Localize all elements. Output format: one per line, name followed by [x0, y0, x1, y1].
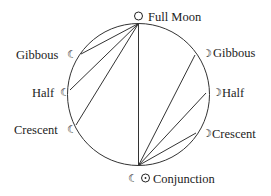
waxing-moon-icon: ☽: [212, 86, 222, 99]
chord-line: [81, 24, 139, 55]
right-half-label: Half: [222, 86, 245, 100]
waning-moon-icon: ☾: [67, 123, 77, 136]
right-crescent-label: Crescent: [212, 127, 256, 141]
left-half-label: Half: [32, 86, 55, 100]
left-crescent-label: Crescent: [14, 123, 58, 137]
chords-from-conjunction: [139, 55, 207, 166]
sun-icon-dot: [145, 177, 147, 179]
waxing-moon-icon: ☽: [202, 47, 212, 60]
chord-line: [76, 24, 139, 126]
chords-from-full-moon: [70, 24, 139, 166]
waning-moon-icon: ☾: [128, 172, 138, 185]
full-moon-icon: [135, 12, 143, 20]
conjunction-label: Conjunction: [153, 172, 216, 186]
lunar-phase-diagram: Full Moon Gibbous ☾ Half ☾ Crescent ☾ ☽ …: [0, 0, 271, 196]
full-moon-label: Full Moon: [148, 10, 202, 24]
waning-moon-icon: ☾: [67, 48, 77, 61]
chord-line: [139, 55, 196, 166]
chord-line: [139, 93, 207, 166]
left-gibbous-label: Gibbous: [16, 48, 59, 62]
right-gibbous-label: Gibbous: [213, 46, 256, 60]
waning-moon-icon: ☾: [60, 86, 70, 99]
waxing-moon-icon: ☽: [202, 127, 212, 140]
